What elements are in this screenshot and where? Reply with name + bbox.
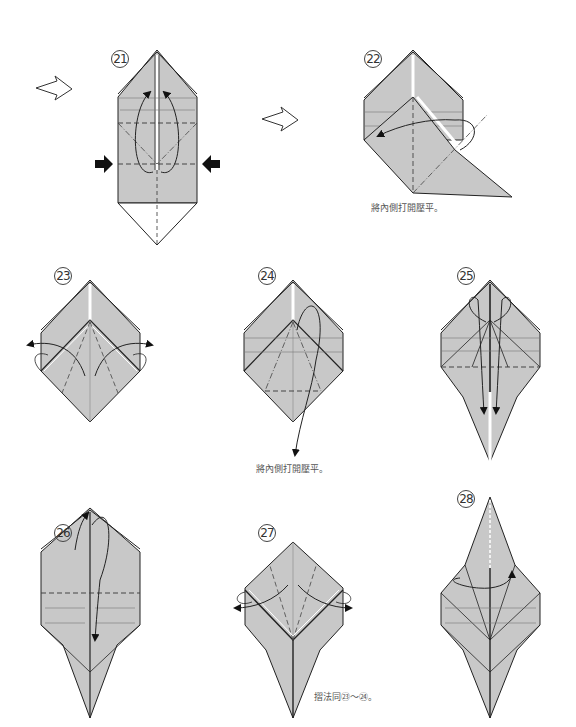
step-27-caption: 摺法同㉓～㉔。 (314, 690, 377, 703)
step-number-23: 23 (54, 267, 72, 285)
hollow-arrow-right-icon (262, 107, 298, 131)
step-number-26: 26 (54, 524, 72, 542)
step-24-figure (244, 280, 343, 455)
step-28-figure (441, 497, 540, 718)
step-24-caption: 將內側打開壓平。 (256, 462, 328, 475)
step-22-figure (364, 50, 512, 197)
origami-diagram (0, 0, 576, 727)
step-number-21: 21 (111, 50, 129, 68)
step-number-28: 28 (457, 490, 475, 508)
step-number-25: 25 (457, 267, 475, 285)
hollow-arrow-right-icon (36, 76, 72, 100)
step-number-27: 27 (258, 524, 276, 542)
step-21-figure (95, 50, 220, 245)
step-22-caption: 將內側打開壓平。 (371, 201, 443, 214)
step-23-figure (28, 280, 152, 422)
step-number-24: 24 (258, 267, 276, 285)
step-25-figure (441, 280, 540, 462)
step-number-22: 22 (364, 50, 382, 68)
